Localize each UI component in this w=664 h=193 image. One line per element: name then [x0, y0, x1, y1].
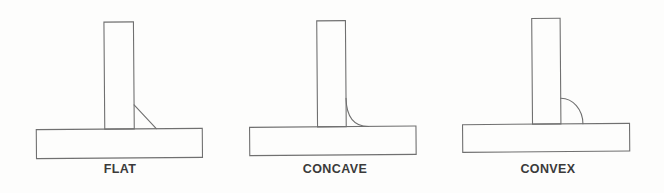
figure-flat: FLAT [30, 10, 210, 190]
weld-bead-convex [561, 98, 583, 124]
figure-concave: CONCAVE [245, 10, 425, 190]
convex-weld-diagram [457, 9, 638, 180]
figure-convex: CONVEX [458, 10, 638, 190]
weld-bead-flat [134, 105, 156, 129]
figure-label-concave: CONCAVE [245, 162, 425, 176]
concave-weld-diagram [244, 9, 425, 180]
weld-bead-concave [346, 98, 369, 127]
figure-label-convex: CONVEX [458, 162, 638, 176]
vertical-plate [532, 18, 561, 124]
base-plate [36, 128, 202, 158]
weld-profile-types-figure: FLAT CONCAVE CONVEX [0, 0, 664, 193]
flat-weld-diagram [29, 9, 210, 180]
vertical-plate [317, 21, 347, 127]
base-plate [463, 123, 630, 152]
base-plate [250, 126, 417, 156]
vertical-plate [104, 22, 134, 129]
figure-label-flat: FLAT [30, 162, 210, 176]
